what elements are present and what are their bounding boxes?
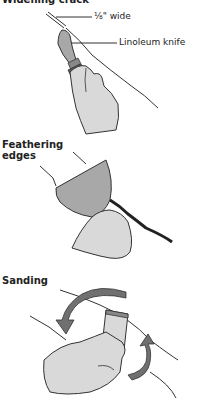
- rotate-arrow-small-icon: [128, 334, 154, 380]
- hand-icon-3: [44, 332, 125, 394]
- panel-2-heading-line2: edges: [2, 150, 36, 161]
- hand-icon-2: [72, 210, 132, 258]
- panel-2-heading-line1: Feathering: [2, 139, 63, 150]
- hand-icon-1: [70, 66, 119, 134]
- illustration: [0, 0, 199, 415]
- panel-3-heading: Sanding: [2, 275, 48, 286]
- knife-callout: Linoleum knife: [119, 37, 185, 48]
- width-callout: ⅛" wide: [94, 11, 131, 22]
